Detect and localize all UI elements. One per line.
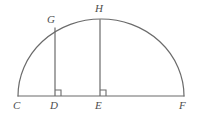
right-angle-mark-D	[55, 90, 61, 96]
point-label-D: D	[50, 100, 58, 111]
semicircular-arc-CHF	[18, 19, 184, 96]
point-label-F: F	[179, 100, 186, 111]
figure-canvas	[0, 0, 205, 122]
point-label-C: C	[13, 100, 20, 111]
right-angle-mark-E	[100, 90, 106, 96]
point-label-E: E	[95, 100, 102, 111]
point-label-H: H	[95, 3, 103, 14]
point-label-G: G	[47, 14, 55, 25]
geometry-figure: C D E F G H	[0, 0, 205, 122]
